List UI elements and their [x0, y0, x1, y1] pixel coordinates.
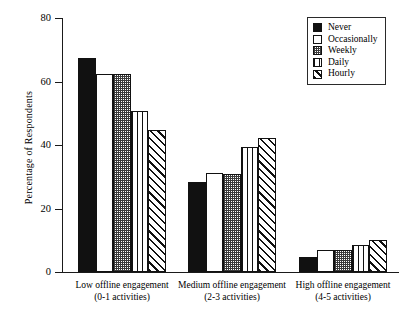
- legend-item-daily[interactable]: Daily: [313, 57, 378, 69]
- y-tick-80: [55, 18, 62, 19]
- x-label-sub: (4-5 activities): [273, 292, 411, 304]
- x-label-main: High offline engagement: [273, 280, 411, 292]
- y-tick-label-80: 80: [41, 13, 52, 24]
- bar-never-group2[interactable]: [188, 182, 206, 272]
- y-tick-20: [55, 209, 62, 210]
- legend-swatch-icon-occasionally: [313, 35, 322, 44]
- bar-daily-group2[interactable]: [241, 147, 259, 272]
- y-tick-label-20: 20: [41, 203, 52, 214]
- legend-swatch-icon-hourly: [313, 70, 322, 79]
- y-axis-line: [62, 18, 63, 272]
- bar-hourly-group3[interactable]: [369, 240, 387, 272]
- legend-swatch-icon-daily: [313, 58, 322, 67]
- bar-never-group3[interactable]: [299, 257, 317, 272]
- legend-swatch-icon-never: [313, 23, 322, 32]
- legend-swatch-icon-weekly: [313, 46, 322, 55]
- legend-label: Never: [328, 23, 351, 33]
- legend-item-never[interactable]: Never: [313, 22, 378, 34]
- x-axis-label-3: High offline engagement(4-5 activities): [273, 280, 411, 303]
- bar-weekly-group2[interactable]: [223, 174, 241, 272]
- bar-group-2: [188, 18, 276, 272]
- bar-never-group1[interactable]: [78, 58, 96, 272]
- legend-label: Hourly: [328, 69, 355, 79]
- bar-daily-group1[interactable]: [131, 111, 149, 272]
- legend-item-hourly[interactable]: Hourly: [313, 68, 378, 80]
- bar-weekly-group1[interactable]: [113, 74, 131, 272]
- bar-group-1: [78, 18, 166, 272]
- bar-hourly-group2[interactable]: [258, 138, 276, 272]
- legend-item-occasionally[interactable]: Occasionally: [313, 34, 378, 46]
- bar-occasionally-group2[interactable]: [206, 173, 224, 272]
- y-tick-label-0: 0: [46, 267, 51, 278]
- bar-occasionally-group1[interactable]: [96, 74, 114, 272]
- y-tick-0: [55, 272, 62, 273]
- bar-occasionally-group3[interactable]: [317, 250, 335, 272]
- legend: NeverOccasionallyWeeklyDailyHourly: [307, 17, 386, 85]
- bar-hourly-group1[interactable]: [148, 130, 166, 272]
- y-tick-label-40: 40: [41, 140, 52, 151]
- legend-label: Occasionally: [328, 35, 378, 45]
- y-axis-title: Percentage of Respondents: [23, 58, 34, 238]
- legend-item-weekly[interactable]: Weekly: [313, 45, 378, 57]
- bar-weekly-group3[interactable]: [334, 250, 352, 272]
- y-tick-label-60: 60: [41, 76, 52, 87]
- legend-label: Daily: [328, 58, 349, 68]
- bar-daily-group3[interactable]: [352, 245, 370, 272]
- y-tick-60: [55, 82, 62, 83]
- bar-chart: Percentage of Respondents 020406080 Low …: [0, 0, 411, 324]
- y-tick-40: [55, 145, 62, 146]
- legend-label: Weekly: [328, 46, 357, 56]
